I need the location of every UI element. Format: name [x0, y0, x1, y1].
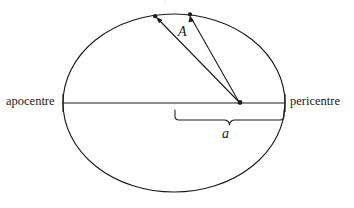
orbital-ellipse-figure: Kepler's second law apocentre pericentre… — [0, 0, 354, 208]
semi-major-axis-brace — [175, 110, 284, 125]
focus-point-marker — [238, 100, 243, 105]
apocentre-label: apocentre — [6, 95, 55, 108]
pericentre-label: pericentre — [290, 95, 340, 108]
orbit-point-marker-1 — [153, 14, 157, 18]
cropped-caption-fragment: Kepler's second law — [150, 0, 242, 3]
semi-major-axis-label: a — [222, 127, 229, 141]
orbit-point-marker-2 — [188, 12, 192, 16]
swept-area-label: A — [178, 25, 187, 39]
